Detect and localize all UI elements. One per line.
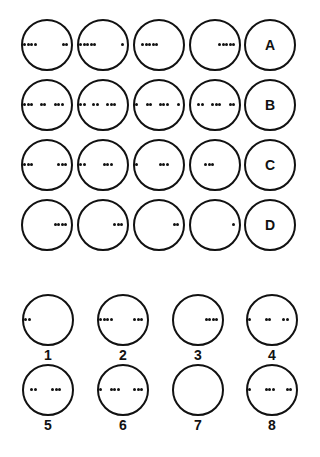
pattern-circle: [189, 199, 241, 251]
dot: [57, 163, 60, 166]
dot: [133, 318, 136, 321]
option-circle-b: B: [244, 79, 296, 131]
dot: [23, 163, 26, 166]
dot: [135, 103, 138, 106]
pattern-circle: [21, 79, 73, 131]
dot: [268, 318, 271, 321]
option-circle-d: D: [244, 199, 296, 251]
dot: [166, 103, 169, 106]
pattern-circle: [133, 199, 185, 251]
pattern-circle: [189, 79, 241, 131]
dot: [106, 318, 109, 321]
dot: [117, 388, 120, 391]
dot: [162, 103, 165, 106]
dot: [30, 388, 33, 391]
dot: [268, 388, 271, 391]
dot: [86, 43, 89, 46]
dot: [218, 103, 221, 106]
dot: [23, 103, 26, 106]
dot: [121, 43, 124, 46]
answer-number: 6: [108, 417, 138, 433]
dot: [272, 388, 275, 391]
dot: [79, 163, 82, 166]
dot: [166, 163, 169, 166]
dot: [162, 163, 165, 166]
dot: [99, 318, 102, 321]
dot: [106, 103, 109, 106]
dot: [34, 43, 37, 46]
dot: [110, 163, 113, 166]
answer-circle-4: [246, 294, 298, 346]
dot: [64, 163, 67, 166]
dot: [204, 163, 207, 166]
pattern-circle: [77, 139, 129, 191]
option-label: C: [246, 141, 294, 189]
answer-number: 5: [33, 417, 63, 433]
dot: [93, 43, 96, 46]
dot: [28, 318, 31, 321]
option-label: B: [246, 81, 294, 129]
dot: [99, 388, 102, 391]
answer-circle-7: [172, 364, 224, 416]
dot: [177, 103, 180, 106]
dot: [30, 103, 33, 106]
dot: [24, 318, 27, 321]
dot: [248, 318, 251, 321]
dot: [96, 103, 99, 106]
answer-number: 1: [33, 347, 63, 363]
option-label: D: [246, 201, 294, 249]
dot: [30, 163, 33, 166]
dot: [65, 43, 68, 46]
answer-number: 2: [108, 347, 138, 363]
pattern-circle: [77, 199, 129, 251]
dot: [23, 43, 26, 46]
pattern-circle: [133, 19, 185, 71]
dot: [79, 103, 82, 106]
dot: [282, 318, 285, 321]
dot: [79, 43, 82, 46]
dot: [155, 43, 158, 46]
dot: [197, 103, 200, 106]
answer-circle-3: [172, 294, 224, 346]
option-label: A: [246, 21, 294, 69]
dot: [201, 103, 204, 106]
dot: [58, 388, 61, 391]
option-circle-a: A: [244, 19, 296, 71]
dot: [141, 43, 144, 46]
dot: [148, 43, 151, 46]
dot: [106, 163, 109, 166]
dot: [140, 388, 143, 391]
dot: [57, 103, 60, 106]
dot: [232, 103, 235, 106]
dot: [110, 318, 113, 321]
dot: [83, 103, 86, 106]
dot: [215, 318, 218, 321]
dot: [211, 103, 214, 106]
pattern-circle: [133, 79, 185, 131]
dot: [225, 43, 228, 46]
dot: [218, 43, 221, 46]
dot: [286, 318, 289, 321]
dot: [289, 388, 292, 391]
pattern-circle: [189, 139, 241, 191]
dot: [140, 318, 143, 321]
answer-circle-5: [22, 364, 74, 416]
pattern-circle: [21, 199, 73, 251]
dot: [149, 103, 152, 106]
dot: [92, 103, 95, 106]
dot: [135, 163, 138, 166]
pattern-circle: [77, 19, 129, 71]
pattern-circle: [133, 139, 185, 191]
dot: [113, 103, 116, 106]
dot: [120, 223, 123, 226]
pattern-circle: [21, 139, 73, 191]
pattern-circle: [189, 19, 241, 71]
dot: [61, 103, 64, 106]
dot: [232, 223, 235, 226]
dot: [232, 43, 235, 46]
dot: [57, 223, 60, 226]
dot: [248, 388, 251, 391]
dot: [113, 223, 116, 226]
answer-circle-8: [246, 364, 298, 416]
dot: [43, 103, 46, 106]
